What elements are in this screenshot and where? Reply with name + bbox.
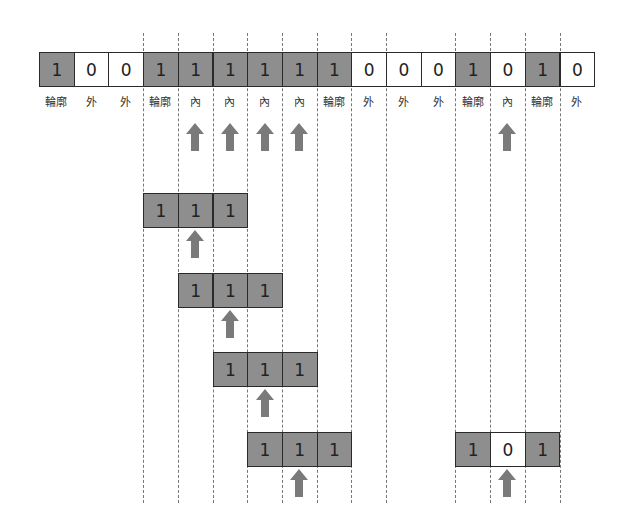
window-cell: 0 <box>490 432 526 467</box>
pixel-classification-label: 內 <box>178 93 213 109</box>
pixel-classification-label: 輪廓 <box>39 93 74 109</box>
pixel-cell: 0 <box>351 52 387 87</box>
pixel-classification-label: 外 <box>74 93 109 109</box>
up-arrow-icon <box>256 389 274 417</box>
up-arrow-icon <box>221 310 239 338</box>
pixel-cell: 1 <box>39 52 75 87</box>
pixel-cell: 0 <box>386 52 422 87</box>
pixel-classification-label: 內 <box>213 93 248 109</box>
pixel-cell: 1 <box>247 52 283 87</box>
pixel-classification-label: 外 <box>108 93 143 109</box>
pixel-cell: 1 <box>213 52 249 87</box>
up-arrow-icon <box>498 123 516 151</box>
window-cell: 1 <box>178 273 214 308</box>
window-cell: 1 <box>213 273 249 308</box>
up-arrow-icon <box>186 230 204 258</box>
pixel-cell: 1 <box>143 52 179 87</box>
window-cell: 1 <box>247 273 283 308</box>
up-arrow-icon <box>221 123 239 151</box>
pixel-classification-label: 內 <box>247 93 282 109</box>
pixel-cell: 0 <box>490 52 526 87</box>
pixel-cell: 1 <box>317 52 353 87</box>
pixel-classification-label: 輪廓 <box>143 93 178 109</box>
pixel-classification-label: 輪廓 <box>525 93 560 109</box>
pixel-cell: 1 <box>455 52 491 87</box>
window-cell: 1 <box>455 432 491 467</box>
pixel-classification-label: 輪廓 <box>455 93 490 109</box>
window-cell: 1 <box>317 432 353 467</box>
window-cell: 1 <box>178 193 214 228</box>
pixel-classification-label: 內 <box>490 93 525 109</box>
pixel-cell: 1 <box>282 52 318 87</box>
pixel-cell: 0 <box>108 52 144 87</box>
pixel-cell: 0 <box>560 52 596 87</box>
window-cell: 1 <box>143 193 179 228</box>
pixel-cell: 0 <box>74 52 110 87</box>
window-cell: 1 <box>213 193 249 228</box>
up-arrow-icon <box>498 469 516 497</box>
pixel-classification-label: 輪廓 <box>317 93 352 109</box>
up-arrow-icon <box>256 123 274 151</box>
window-cell: 1 <box>282 432 318 467</box>
pixel-classification-label: 內 <box>282 93 317 109</box>
window-cell: 1 <box>282 352 318 387</box>
window-cell: 1 <box>525 432 561 467</box>
window-cell: 1 <box>247 432 283 467</box>
pixel-cell: 0 <box>421 52 457 87</box>
up-arrow-icon <box>290 469 308 497</box>
pixel-classification-label: 外 <box>386 93 421 109</box>
pixel-cell: 1 <box>178 52 214 87</box>
up-arrow-icon <box>290 123 308 151</box>
pixel-cell: 1 <box>525 52 561 87</box>
pixel-classification-label: 外 <box>560 93 595 109</box>
up-arrow-icon <box>186 123 204 151</box>
pixel-classification-label: 外 <box>351 93 386 109</box>
window-cell: 1 <box>213 352 249 387</box>
window-cell: 1 <box>247 352 283 387</box>
pixel-classification-label: 外 <box>421 93 456 109</box>
